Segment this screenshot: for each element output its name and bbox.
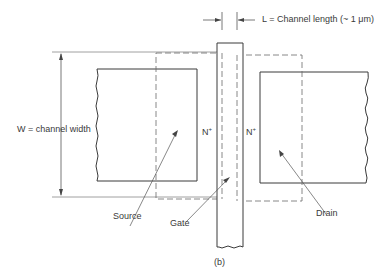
w-arrow-top-icon: [59, 53, 63, 60]
channel-length-label: L = Channel length (~ 1 μm): [262, 14, 374, 24]
drain-doping-sup: +: [253, 126, 257, 132]
drain-label: Drain: [316, 208, 338, 218]
source-leader-arrow-icon: [172, 130, 178, 137]
source-doping-sup: +: [209, 126, 213, 132]
mosfet-layout-diagram: [0, 0, 392, 280]
source-diffusion: [96, 69, 197, 181]
drain-doping-label: N+: [246, 126, 256, 137]
gate-label: Gate: [170, 218, 190, 228]
source-doping-label: N+: [202, 126, 212, 137]
l-arrow-right-icon: [238, 18, 244, 22]
w-arrow-bottom-icon: [59, 189, 63, 196]
figure-caption: (b): [214, 257, 225, 267]
source-n-plus-region: [156, 53, 222, 199]
source-label: Source: [113, 211, 142, 221]
channel-width-label: W = channel width: [17, 124, 91, 134]
l-arrow-left-icon: [215, 18, 221, 22]
gate-poly: [217, 43, 243, 248]
drain-diffusion: [260, 72, 368, 183]
